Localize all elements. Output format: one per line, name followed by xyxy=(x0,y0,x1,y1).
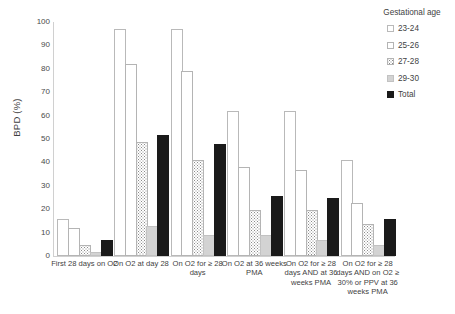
legend: Gestational age 23-2425-2627-2829-30Tota… xyxy=(370,8,454,107)
y-axis-tick: 10 xyxy=(22,229,50,237)
legend-item-total[interactable]: Total xyxy=(387,90,454,99)
legend-item-label: 25-26 xyxy=(398,41,419,50)
y-axis-tick: 40 xyxy=(22,158,50,166)
bar-group xyxy=(57,22,111,256)
x-axis-tick: On O2 for ≥ 28 days AND on O2 ≥ 30% or P… xyxy=(334,259,401,297)
legend-item-23-24[interactable]: 23-24 xyxy=(387,24,454,33)
legend-swatch-icon xyxy=(387,75,394,82)
bar-group xyxy=(284,22,338,256)
legend-item-label: 27-28 xyxy=(398,57,419,66)
y-axis-tick: 50 xyxy=(22,135,50,143)
bar xyxy=(101,240,113,256)
y-axis-title: BPD (%) xyxy=(11,78,22,158)
y-axis-tick: 90 xyxy=(22,41,50,49)
y-axis-tick: 60 xyxy=(22,112,50,120)
legend-items: 23-2425-2627-2829-30Total xyxy=(370,24,454,99)
legend-swatch-icon xyxy=(387,58,394,65)
bar xyxy=(384,219,396,256)
y-axis-tick: 70 xyxy=(22,88,50,96)
y-axis-tick: 30 xyxy=(22,182,50,190)
legend-item-label: Total xyxy=(398,90,415,99)
bar-group xyxy=(171,22,225,256)
plot-area xyxy=(54,22,394,256)
bar-group xyxy=(227,22,281,256)
legend-item-29-30[interactable]: 29-30 xyxy=(387,74,454,83)
y-axis-tick: 20 xyxy=(22,205,50,213)
y-axis-tick: 100 xyxy=(22,18,50,26)
bar xyxy=(327,198,339,256)
legend-swatch-icon xyxy=(387,42,394,49)
legend-title: Gestational age xyxy=(370,8,454,17)
bar xyxy=(271,196,283,257)
legend-item-25-26[interactable]: 25-26 xyxy=(387,41,454,50)
legend-item-label: 23-24 xyxy=(398,24,419,33)
x-axis-tick-labels: First 28 days on O2On O2 at day 28On O2 … xyxy=(54,259,394,313)
legend-item-27-28[interactable]: 27-28 xyxy=(387,57,454,66)
legend-swatch-icon xyxy=(387,25,394,32)
legend-item-label: 29-30 xyxy=(398,74,419,83)
bar-group xyxy=(114,22,168,256)
y-axis-tick-labels: 1009080706050403020100 xyxy=(22,16,50,262)
y-axis-tick: 80 xyxy=(22,65,50,73)
bar-chart: BPD (%) 1009080706050403020100 First 28 … xyxy=(0,0,455,314)
legend-swatch-icon xyxy=(387,91,394,98)
bar xyxy=(214,144,226,256)
x-axis-line xyxy=(53,256,395,257)
y-axis-tick: 0 xyxy=(22,252,50,260)
bar xyxy=(157,135,169,256)
